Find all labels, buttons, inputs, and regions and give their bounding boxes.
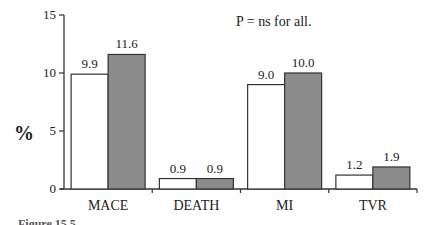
y-tick-label: 0 (50, 181, 57, 196)
bar-death-series-2 (196, 179, 233, 189)
data-label: 10.0 (292, 55, 315, 70)
data-label: 0.9 (170, 161, 186, 176)
y-axis-label: % (14, 122, 34, 144)
bar-mace-series-2 (108, 54, 145, 189)
data-label: 9.9 (82, 56, 98, 71)
bar-mi-series-2 (285, 73, 322, 189)
bar-chart: 051015 9.911.6MACE0.90.9DEATH9.010.0MI1.… (0, 0, 433, 225)
annotation-note: P = ns for all. (236, 14, 311, 29)
y-tick-label: 10 (43, 65, 56, 80)
data-label: 1.9 (383, 149, 399, 164)
data-label: 1.2 (346, 157, 362, 172)
data-label: 0.9 (207, 161, 223, 176)
bar-mi-series-1 (248, 85, 285, 189)
y-tick-label: 15 (43, 7, 56, 22)
y-tick-label: 5 (50, 123, 57, 138)
bar-death-series-1 (159, 179, 196, 189)
data-label: 11.6 (115, 36, 138, 51)
x-tick-label: MI (276, 198, 293, 213)
figure-caption: Figure 15.5 (18, 217, 76, 225)
x-tick-label: MACE (88, 198, 128, 213)
x-tick-label: TVR (359, 198, 388, 213)
bar-mace-series-1 (71, 74, 108, 189)
data-label: 9.0 (258, 67, 274, 82)
bar-tvr-series-1 (336, 175, 373, 189)
bar-tvr-series-2 (373, 167, 410, 189)
x-tick-label: DEATH (173, 198, 219, 213)
